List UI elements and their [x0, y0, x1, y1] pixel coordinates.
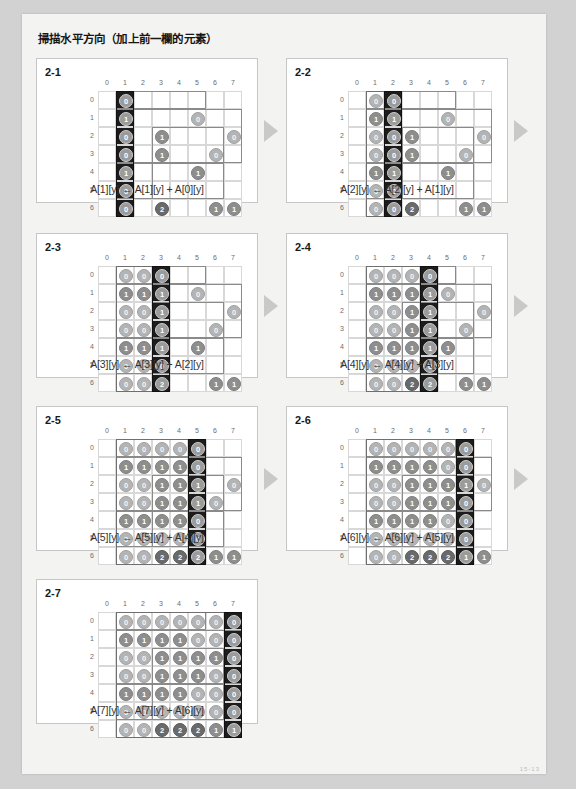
cell-value-disc: 0	[369, 323, 383, 337]
cell-value-disc: 2	[405, 377, 419, 391]
cell-grid: 0000111100011000110111110000002211	[348, 266, 492, 392]
matrix-cell: 1	[188, 338, 206, 356]
column-header: 6	[206, 79, 224, 86]
cell-value-disc: 1	[423, 341, 437, 355]
matrix-cell: 0	[456, 439, 474, 457]
row-header: 1	[80, 289, 94, 296]
cell-value-disc: 1	[441, 478, 455, 492]
matrix-cell	[474, 109, 492, 127]
matrix-cell: 0	[116, 320, 134, 338]
matrix-cell: 0	[366, 320, 384, 338]
matrix-cell: 0	[420, 266, 438, 284]
column-header: 3	[152, 427, 170, 434]
cell-value-disc: 0	[387, 94, 401, 108]
row-header: 0	[330, 96, 344, 103]
matrix-cell: 1	[366, 338, 384, 356]
matrix-cell	[170, 199, 188, 217]
cell-value-disc: 1	[405, 305, 419, 319]
cell-value-disc: 1	[137, 287, 151, 301]
cell-value-disc: 0	[209, 633, 223, 647]
cell-value-disc: 2	[173, 723, 187, 737]
panel-2-1: 2-10123456701234560100100101100211A[1][y…	[36, 58, 258, 203]
column-header: 3	[402, 427, 420, 434]
matrix-cell	[134, 91, 152, 109]
play-triangle-icon	[264, 295, 278, 317]
matrix-cell: 1	[116, 109, 134, 127]
matrix-cell: 2	[402, 374, 420, 392]
cell-value-disc: 0	[227, 687, 241, 701]
column-header: 2	[134, 254, 152, 261]
matrix-cell	[188, 302, 206, 320]
matrix-cell	[456, 127, 474, 145]
matrix-cell: 2	[420, 547, 438, 565]
cell-value-disc: 1	[155, 496, 169, 510]
matrix-cell: 1	[224, 374, 242, 392]
cell-value-disc: 1	[155, 478, 169, 492]
matrix-cell	[348, 302, 366, 320]
column-header: 7	[474, 254, 492, 261]
matrix-cell: 0	[420, 439, 438, 457]
matrix-cell: 2	[402, 199, 420, 217]
cell-value-disc: 0	[191, 687, 205, 701]
matrix-cell	[134, 163, 152, 181]
matrix-cell: 1	[384, 284, 402, 302]
matrix-cell: 1	[384, 163, 402, 181]
matrix-cell: 1	[456, 374, 474, 392]
cell-value-disc: 1	[477, 202, 491, 216]
play-triangle-icon	[514, 468, 528, 490]
matrix-cell	[98, 320, 116, 338]
matrix-cell	[348, 338, 366, 356]
matrix-cell: 0	[384, 91, 402, 109]
matrix-cell	[152, 163, 170, 181]
cell-value-disc: 0	[227, 305, 241, 319]
matrix-cell	[402, 163, 420, 181]
cell-value-disc: 0	[369, 148, 383, 162]
matrix-cell: 1	[366, 457, 384, 475]
cell-value-disc: 0	[137, 478, 151, 492]
matrix-cell: 1	[170, 630, 188, 648]
row-header: 3	[80, 325, 94, 332]
cell-value-disc: 0	[119, 478, 133, 492]
panel-formula: A[2][y] ← A[2][y] + A[1][y]	[287, 183, 507, 195]
cell-value-disc: 0	[405, 269, 419, 283]
matrix-cell: 0	[438, 109, 456, 127]
cell-value-disc: 0	[387, 305, 401, 319]
cell-value-disc: 1	[191, 669, 205, 683]
play-triangle-icon	[264, 120, 278, 142]
matrix-cell: 1	[188, 163, 206, 181]
cell-value-disc: 1	[209, 202, 223, 216]
cell-value-disc: 0	[477, 478, 491, 492]
matrix-cell: 0	[134, 720, 152, 738]
cell-value-disc: 1	[209, 651, 223, 665]
matrix-cell	[438, 199, 456, 217]
matrix-cell	[188, 320, 206, 338]
row-header: 2	[330, 307, 344, 314]
row-header: 0	[80, 444, 94, 451]
panel-step-label: 2-4	[295, 241, 311, 253]
cell-value-disc: 0	[137, 442, 151, 456]
cell-value-disc: 1	[137, 460, 151, 474]
cell-value-disc: 0	[119, 550, 133, 564]
row-header: 4	[330, 516, 344, 523]
matrix-cell: 0	[224, 127, 242, 145]
matrix-cell	[474, 493, 492, 511]
matrix-cell	[170, 91, 188, 109]
matrix-cell: 0	[134, 266, 152, 284]
row-header: 4	[330, 168, 344, 175]
matrix-cell: 1	[188, 666, 206, 684]
play-triangle-icon	[514, 295, 528, 317]
column-header: 1	[366, 427, 384, 434]
matrix-cell	[206, 457, 224, 475]
panel-formula: A[5][y] ← A[5][y] + A[4][y]	[37, 531, 257, 543]
cell-value-disc: 0	[369, 130, 383, 144]
matrix-cell: 1	[420, 284, 438, 302]
matrix-cell	[402, 91, 420, 109]
cell-value-disc: 2	[191, 723, 205, 737]
cell-value-disc: 1	[173, 496, 187, 510]
matrix-cell	[348, 547, 366, 565]
cell-value-disc: 1	[155, 341, 169, 355]
cell-value-disc: 0	[459, 514, 473, 528]
matrix-cell	[98, 612, 116, 630]
matrix-cell	[170, 127, 188, 145]
cell-value-disc: 0	[387, 550, 401, 564]
